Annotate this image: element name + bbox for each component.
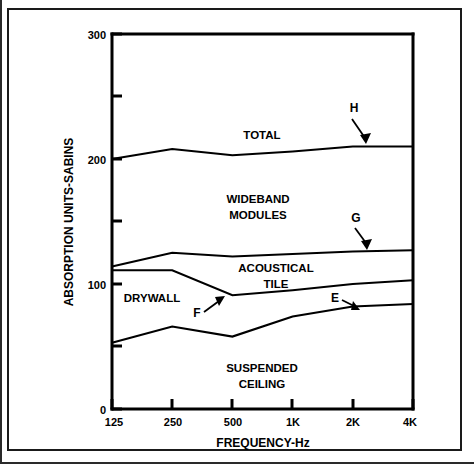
- total-curve: [112, 147, 413, 160]
- callout-arrowhead-f: [215, 296, 225, 306]
- region-label-wideband-line2: MODULES: [229, 209, 287, 221]
- region-labels: TOTAL WIDEBAND MODULES ACOUSTICAL TILE D…: [124, 129, 314, 390]
- region-label-suspended-line2: CEILING: [239, 378, 286, 390]
- x-tick-label-4k: 4K: [403, 416, 417, 428]
- callout-arrowhead-g: [361, 239, 372, 250]
- region-label-suspended-line1: SUSPENDED: [226, 362, 298, 374]
- y-tick-label-100: 100: [88, 279, 106, 291]
- x-axis-title: FREQUENCY-Hz: [216, 436, 309, 450]
- x-axis-tick-labels: 125 250 500 1K 2K 4K: [105, 416, 417, 428]
- absorption-frequency-chart: 300 200 100 0 ABSORPTION UNITS-SABINS 12…: [0, 0, 474, 470]
- x-tick-label-125: 125: [105, 416, 123, 428]
- region-label-acoustical-line1: ACOUSTICAL: [238, 262, 313, 274]
- region-label-acoustical-line2: TILE: [264, 278, 289, 290]
- y-axis-title: ABSORPTION UNITS-SABINS: [62, 138, 76, 307]
- region-label-drywall: DRYWALL: [124, 292, 180, 304]
- y-tick-label-200: 200: [88, 154, 106, 166]
- callout-label-e: E: [331, 291, 339, 305]
- callout-label-h: H: [350, 101, 359, 115]
- y-tick-label-300: 300: [88, 29, 106, 41]
- x-tick-label-2k: 2K: [346, 416, 360, 428]
- x-tick-label-500: 500: [224, 416, 242, 428]
- y-axis-tick-labels: 300 200 100 0: [88, 29, 106, 416]
- y-tick-label-0: 0: [100, 404, 106, 416]
- x-tick-label-1k: 1K: [286, 416, 300, 428]
- callout-leader-f: [204, 301, 219, 312]
- plot-axes: [112, 34, 413, 409]
- x-tick-label-250: 250: [164, 416, 182, 428]
- figure-root: 300 200 100 0 ABSORPTION UNITS-SABINS 12…: [0, 0, 474, 470]
- region-label-wideband-line1: WIDEBAND: [226, 193, 289, 205]
- callout-label-f: F: [193, 306, 200, 320]
- region-label-total: TOTAL: [243, 129, 280, 141]
- suspended-ceiling-curve: [112, 304, 413, 343]
- callout-label-g: G: [351, 211, 360, 225]
